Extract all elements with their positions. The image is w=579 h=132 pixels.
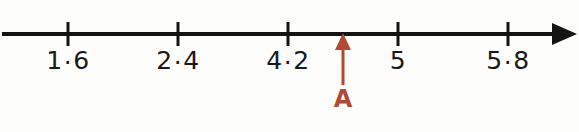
tick-label-4: 5·8: [486, 48, 529, 75]
tick-label-0: 1·6: [46, 48, 89, 75]
tick-label-1: 2·4: [156, 48, 199, 75]
number-line-figure: 1·62·44·255·8 A: [0, 0, 579, 132]
marker-arrow-group: [335, 33, 351, 85]
right-arrowhead: [552, 23, 577, 45]
marker-label-a: A: [334, 87, 353, 111]
tick-label-3: 5: [390, 48, 406, 73]
tick-label-2: 4·2: [266, 48, 309, 75]
